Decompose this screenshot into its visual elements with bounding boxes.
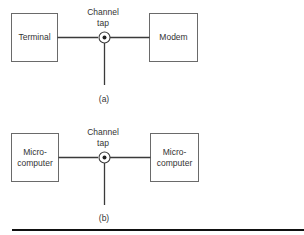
microcomputer-right-label-line1: Micro- bbox=[163, 147, 187, 157]
channel-tap-figure: Terminal Modem Channel tap (a) Micro- co… bbox=[0, 0, 304, 235]
diagram-a: Terminal Modem Channel tap (a) bbox=[12, 7, 198, 104]
caption-a: (a) bbox=[99, 94, 110, 104]
microcomputer-right-label-line2: computer bbox=[157, 158, 193, 168]
channel-tap-icon bbox=[99, 152, 110, 163]
caption-b: (b) bbox=[99, 213, 110, 223]
terminal-label: Terminal bbox=[18, 32, 50, 42]
channel-tap-label-line1: Channel bbox=[87, 127, 119, 137]
diagram-b: Micro- computer Micro- computer Channel … bbox=[12, 127, 199, 223]
channel-tap-label-line2: tap bbox=[97, 138, 109, 148]
modem-label: Modem bbox=[159, 32, 187, 42]
microcomputer-left-label-line2: computer bbox=[17, 158, 53, 168]
microcomputer-left-label-line1: Micro- bbox=[23, 147, 47, 157]
channel-tap-label-line1: Channel bbox=[87, 7, 119, 17]
channel-tap-icon bbox=[99, 32, 110, 43]
channel-tap-label-line2: tap bbox=[97, 18, 109, 28]
